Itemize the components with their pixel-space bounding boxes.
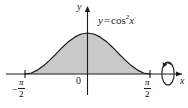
function-label-arg: x [129, 14, 134, 26]
origin-label: 0 [76, 76, 81, 86]
x-tick-label-neg-pi-over-2: − π 2 [12, 78, 25, 99]
x-tick-label-right-numerator: π [144, 78, 151, 89]
y-axis-label: y [77, 2, 81, 12]
x-tick-label-pi-over-2: π 2 [144, 78, 151, 99]
plot-canvas [0, 0, 188, 108]
x-tick-label-left-sign: − [12, 84, 17, 94]
x-tick-label-left-fraction: π 2 [18, 78, 25, 99]
function-label-equals: = [103, 14, 111, 26]
x-tick-label-left-numerator: π [18, 78, 25, 89]
function-label: y=cos2x [98, 14, 134, 26]
function-label-name: cos [111, 14, 126, 26]
figure-container: y=cos2x y x 0 − π 2 π 2 [0, 0, 188, 108]
y-axis-arrowhead [85, 6, 90, 12]
x-tick-label-right-fraction: π 2 [144, 78, 151, 99]
x-tick-label-right-denominator: 2 [145, 89, 150, 99]
x-tick-label-left-denominator: 2 [19, 89, 24, 99]
x-axis-label: x [180, 76, 184, 86]
